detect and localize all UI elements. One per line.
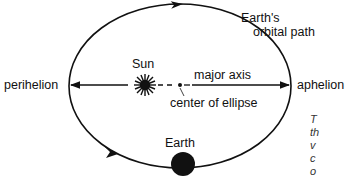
orbit-diagram: Earth's orbital path Sun perihelion majo… <box>0 0 349 185</box>
center-dot-icon <box>178 83 182 87</box>
major-axis-label: major axis <box>194 69 251 82</box>
caption-line: T <box>310 113 319 126</box>
caption-line: c <box>310 152 319 165</box>
caption-line: th <box>310 126 319 139</box>
earth-label: Earth <box>165 137 195 150</box>
earth-icon <box>171 152 195 176</box>
caption-fragment: T th v c o <box>310 113 319 178</box>
caption-line: o <box>310 165 319 178</box>
perihelion-label: perihelion <box>4 79 58 92</box>
orbit-direction-arrow-bottom-left <box>104 146 118 158</box>
sun-icon <box>134 74 156 96</box>
orbital-path-label-line2: orbital path <box>253 26 315 39</box>
aphelion-label: aphelion <box>297 79 344 92</box>
orbital-path-label: Earth's orbital path <box>241 12 315 38</box>
center-leader-line <box>180 88 184 96</box>
caption-line: v <box>310 139 319 152</box>
orbital-path-label-line1: Earth's <box>241 12 315 25</box>
sun-label: Sun <box>132 58 154 71</box>
center-of-ellipse-label: center of ellipse <box>170 97 258 110</box>
